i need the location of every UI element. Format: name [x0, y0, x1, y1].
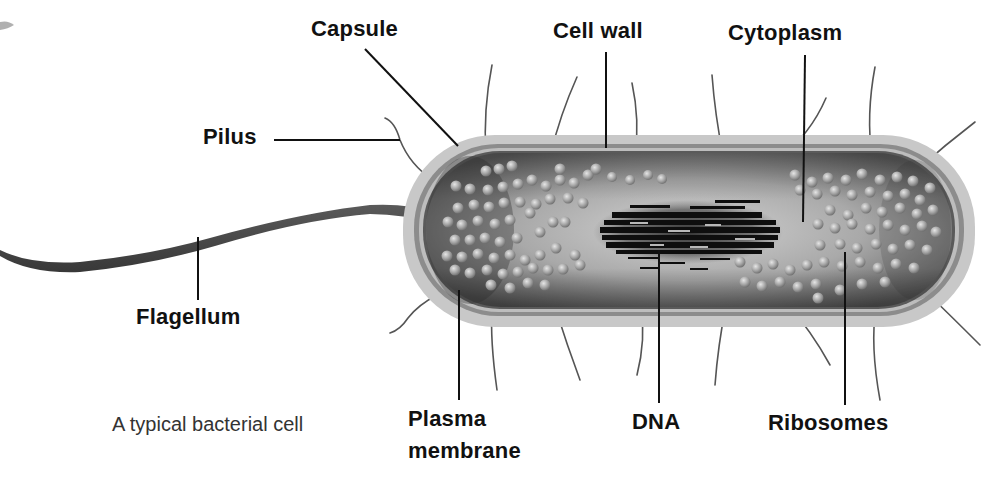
bacterial-cell-diagram: Capsule Cell wall Cytoplasm Pilus Flagel… [0, 0, 986, 477]
capsule-leader-line [365, 49, 458, 146]
pilus-label: Pilus [203, 126, 257, 148]
ribosomes-label: Ribosomes [768, 412, 888, 434]
stray-mark [0, 21, 14, 30]
flagellum-shape [0, 205, 432, 273]
dna-label: DNA [632, 411, 680, 433]
plasma-membrane-label-line1: Plasma [408, 403, 521, 435]
flagellum-label: Flagellum [136, 306, 241, 328]
cell-wall-label: Cell wall [553, 20, 643, 42]
cytoplasm-label: Cytoplasm [728, 22, 842, 44]
plasma-membrane-label: Plasma membrane [408, 403, 521, 467]
plasma-membrane-label-line2: membrane [408, 435, 521, 467]
capsule-label: Capsule [311, 18, 398, 40]
diagram-caption: A typical bacterial cell [112, 414, 303, 434]
